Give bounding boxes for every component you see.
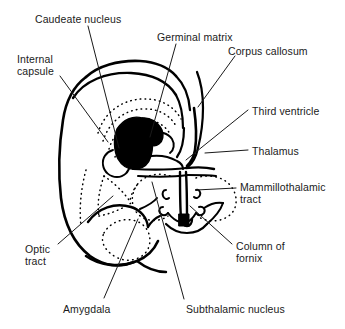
leader-mammillothalamic-tract [196,188,236,190]
leader-thalamus [205,150,248,153]
label-corpus-callosum: Corpus callosum [228,45,308,57]
label-thalamus: Thalamus [252,145,299,157]
third-ventricle-midline [179,172,192,226]
label-third-ventricle: Third ventricle [252,105,319,117]
leader-column-of-fornix [190,206,232,244]
leader-caudeate-nucleus [88,26,119,148]
leader-lines [58,26,248,299]
label-optic-tract: Optic tract [25,243,50,267]
label-internal-capsule: Internal capsule [17,53,54,77]
label-amygdala: Amygdala [63,303,111,315]
anatomical-figure: Caudeate nucleus Germinal matrix Corpus … [0,0,345,329]
label-mammillothalamic-tract: Mammillothalamic tract [240,181,326,205]
label-caudeate-nucleus: Caudeate nucleus [35,13,121,25]
label-germinal-matrix: Germinal matrix [157,31,233,43]
label-column-of-fornix: Column of fornix [236,240,285,264]
label-subthalamic-nucleus: Subthalamic nucleus [186,303,285,315]
leader-corpus-callosum [198,56,235,107]
internal-capsule-band [133,167,216,176]
leader-amygdala [104,219,138,298]
amygdala-region [102,220,149,261]
